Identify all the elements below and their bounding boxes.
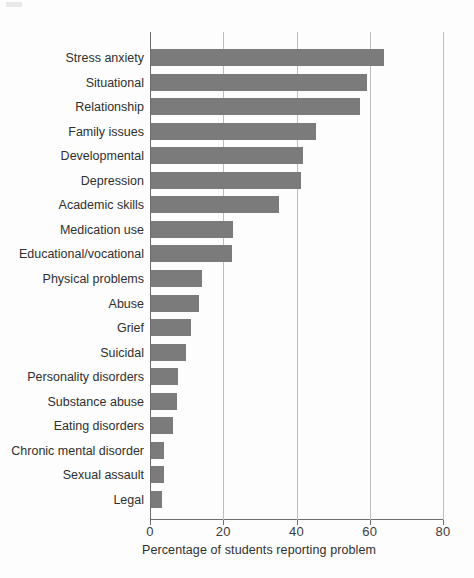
category-label: Personality disorders (0, 370, 152, 384)
category-label: Sexual assault (0, 468, 152, 482)
category-label: Educational/vocational (0, 247, 152, 261)
bar (151, 417, 173, 434)
bar (151, 295, 199, 312)
bar (151, 344, 186, 361)
category-label: Substance abuse (0, 395, 152, 409)
bar (151, 49, 384, 66)
x-tick-label-40: 40 (277, 524, 317, 539)
bar (151, 270, 202, 287)
x-tick-label-20: 20 (203, 524, 243, 539)
bar (151, 74, 367, 91)
gridline-80 (443, 32, 444, 520)
category-label: Depression (0, 174, 152, 188)
category-label: Grief (0, 321, 152, 335)
chart-page: 020406080 Stress anxietySituationalRelat… (0, 0, 474, 578)
x-tick-label-60: 60 (350, 524, 390, 539)
bar (151, 491, 162, 508)
bar (151, 172, 301, 189)
bar (151, 368, 178, 385)
category-label: Medication use (0, 223, 152, 237)
category-label: Developmental (0, 149, 152, 163)
category-label: Suicidal (0, 346, 152, 360)
bar (151, 245, 232, 262)
x-tick-label-80: 80 (423, 524, 463, 539)
category-label: Family issues (0, 125, 152, 139)
x-tick-label-0: 0 (130, 524, 170, 539)
bar (151, 98, 360, 115)
category-label: Chronic mental disorder (0, 444, 152, 458)
bar (151, 196, 279, 213)
x-axis-title: Percentage of students reporting problem (0, 543, 474, 557)
horizontal-bar-chart: 020406080 Stress anxietySituationalRelat… (0, 0, 474, 578)
gridline-60 (370, 32, 371, 520)
bar (151, 221, 233, 238)
category-label: Legal (0, 493, 152, 507)
x-axis-title-text: Percentage of students reporting problem (142, 543, 376, 557)
category-label: Physical problems (0, 272, 152, 286)
bar (151, 147, 303, 164)
category-label: Stress anxiety (0, 51, 152, 65)
bar (151, 466, 164, 483)
category-label: Abuse (0, 297, 152, 311)
category-label: Academic skills (0, 198, 152, 212)
bar (151, 393, 177, 410)
category-label: Eating disorders (0, 419, 152, 433)
bar (151, 319, 191, 336)
bar (151, 442, 164, 459)
bar (151, 123, 316, 140)
category-label: Situational (0, 76, 152, 90)
category-label: Relationship (0, 100, 152, 114)
